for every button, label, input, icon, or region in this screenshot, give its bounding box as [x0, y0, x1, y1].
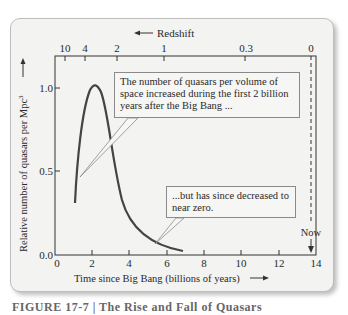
svg-text:0.0: 0.0: [39, 249, 53, 261]
svg-text:4: 4: [82, 42, 88, 54]
arrow-up-icon: [21, 58, 26, 64]
y-axis-ticks: [55, 88, 60, 171]
x-axis-ticks: [92, 250, 279, 255]
svg-text:10: 10: [60, 42, 72, 54]
svg-text:2: 2: [114, 42, 120, 54]
svg-text:0: 0: [54, 257, 60, 269]
svg-text:Time since Big Bang (billions: Time since Big Bang (billions of years): [74, 273, 240, 285]
svg-text:0.5: 0.5: [39, 165, 53, 177]
arrow-right-icon: [263, 276, 269, 281]
svg-text:1: 1: [161, 42, 167, 54]
redshift-axis-title: Redshift: [134, 27, 194, 39]
svg-text:Redshift: Redshift: [157, 27, 194, 39]
svg-text:1.0: 1.0: [39, 82, 53, 94]
y-axis-title: Relative number of quasars per Mpc3: [17, 58, 29, 252]
svg-text:10: 10: [236, 257, 248, 269]
svg-text:Relative number of quasars per: Relative number of quasars per Mpc3: [17, 95, 29, 252]
svg-text:0: 0: [308, 42, 314, 54]
top-axis-ticks: [65, 56, 245, 61]
svg-text:0.3: 0.3: [239, 42, 253, 54]
svg-text:6: 6: [164, 257, 170, 269]
svg-text:8: 8: [201, 257, 207, 269]
figure-caption: FIGURE 17-7 | The Rise and Fall of Quasa…: [12, 300, 262, 315]
top-axis-labels: 10 4 2 1 0.3 0: [60, 42, 315, 54]
y-axis-labels: 1.0 0.5 0.0: [39, 82, 53, 261]
svg-text:2: 2: [89, 257, 95, 269]
svg-text:12: 12: [274, 257, 285, 269]
x-axis-title: Time since Big Bang (billions of years): [74, 273, 269, 285]
callout-increase: The number of quasars per volume of spac…: [114, 72, 300, 118]
arrow-left-icon: [134, 31, 140, 36]
svg-text:14: 14: [311, 257, 323, 269]
x-axis-labels: 0 2 4 6 8 10 12 14: [54, 257, 322, 269]
callout-2-pointer: [155, 218, 184, 244]
callout-decrease: ...but has since decreased to near zero.: [166, 186, 296, 218]
now-label: Now: [301, 227, 322, 238]
svg-text:4: 4: [126, 257, 132, 269]
arrow-down-icon: [308, 246, 314, 253]
